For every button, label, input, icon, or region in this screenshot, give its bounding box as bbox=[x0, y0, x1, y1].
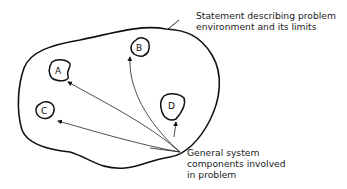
environment-label-line1: Statement describing problem bbox=[196, 10, 336, 21]
components-label-line1: General system bbox=[187, 147, 286, 158]
environment-label: Statement describing problem environment… bbox=[196, 10, 336, 32]
components-label-line3: in problem bbox=[187, 169, 286, 180]
environment-label-line2: environment and its limits bbox=[196, 21, 336, 32]
components-label-line2: components involved bbox=[187, 158, 286, 169]
component-a-label: A bbox=[55, 66, 62, 76]
component-b-label: B bbox=[136, 43, 142, 53]
components-label: General system components involved in pr… bbox=[187, 147, 286, 180]
component-c-label: C bbox=[41, 106, 47, 116]
component-d-label: D bbox=[168, 101, 175, 111]
environment-pointer bbox=[168, 20, 179, 29]
component-arrows bbox=[58, 57, 180, 152]
